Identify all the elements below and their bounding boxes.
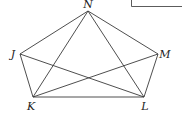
- edges-group: [20, 11, 158, 97]
- vertex-label-k: K: [26, 100, 36, 113]
- partial-frame-box: [132, 0, 183, 7]
- vertex-label-m: M: [158, 48, 171, 61]
- edge-m-k: [33, 54, 158, 97]
- edge-n-l: [88, 11, 144, 97]
- graph-diagram: N J M K L: [0, 0, 182, 117]
- vertex-label-n: N: [82, 0, 93, 11]
- vertex-label-l: L: [140, 100, 148, 113]
- edge-n-j: [20, 11, 88, 54]
- vertex-label-j: J: [9, 48, 16, 61]
- edge-j-k: [20, 54, 33, 97]
- edge-n-k: [33, 11, 88, 97]
- edge-j-l: [20, 54, 144, 97]
- edge-m-l: [144, 54, 158, 97]
- edge-n-m: [88, 11, 158, 54]
